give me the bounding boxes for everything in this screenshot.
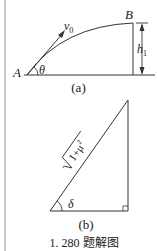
right-angle-mark xyxy=(123,206,128,211)
figure: A B θ v0 h1 (a) 1+μ2 δ (b) 1. 280 题解图 xyxy=(0,0,157,251)
height-label: h1 xyxy=(137,42,147,58)
figure-caption: 1. 280 题解图 xyxy=(50,236,119,250)
hypotenuse-label: 1+μ2 xyxy=(65,138,88,163)
angle-arc xyxy=(34,67,38,75)
point-b-label: B xyxy=(125,7,133,22)
height-arrow-down-icon xyxy=(140,67,145,75)
velocity-label: v0 xyxy=(64,19,73,35)
theta-label: θ xyxy=(39,63,45,77)
figure-b-label: (b) xyxy=(78,217,93,232)
figure-a-label: (a) xyxy=(71,80,85,95)
point-a-label: A xyxy=(12,65,21,80)
figure-b xyxy=(50,100,128,211)
height-arrow-up-icon xyxy=(140,23,145,31)
velocity-arrow xyxy=(27,33,63,75)
hypotenuse-line xyxy=(50,100,128,211)
delta-angle-arc xyxy=(57,201,62,211)
delta-label: δ xyxy=(68,197,74,211)
